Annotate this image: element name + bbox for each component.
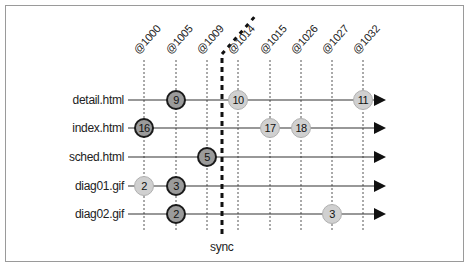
row-label-detail: detail.html — [73, 93, 124, 107]
node-detail-11: 11 — [353, 90, 373, 110]
row-label-sched: sched.html — [69, 150, 124, 164]
sync-label: sync — [210, 240, 233, 254]
node-diag02-3: 3 — [322, 204, 342, 224]
node-diag01-3: 3 — [166, 176, 186, 196]
node-detail-9: 9 — [166, 90, 186, 110]
node-index-18: 18 — [291, 118, 311, 138]
node-diag01-2: 2 — [134, 176, 154, 196]
node-index-16: 16 — [134, 118, 154, 138]
node-diag02-2: 2 — [166, 204, 186, 224]
row-label-index: index.html — [72, 121, 124, 135]
node-sched-5: 5 — [197, 147, 217, 167]
arrow-heads — [374, 94, 386, 220]
row-label-diag01: diag01.gif — [75, 179, 124, 193]
node-detail-10: 10 — [228, 90, 248, 110]
node-index-17: 17 — [260, 118, 280, 138]
row-label-diag02: diag02.gif — [75, 207, 124, 221]
row-lines — [128, 100, 376, 214]
